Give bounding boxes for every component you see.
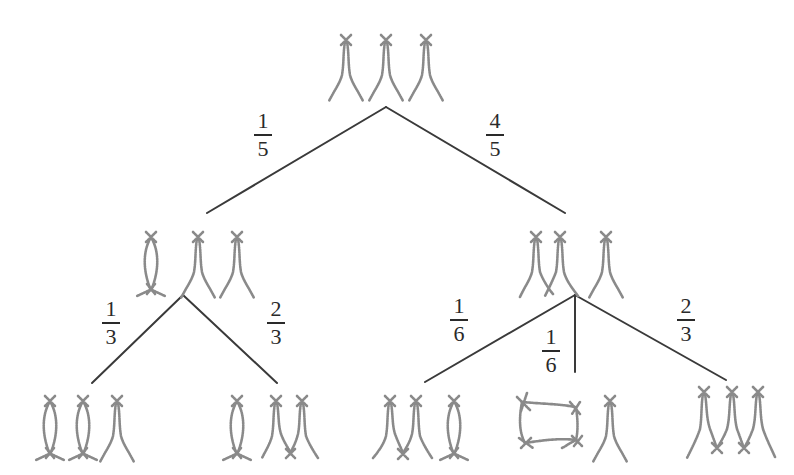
node-level1-right [520, 232, 623, 298]
node-level2-RM [517, 393, 627, 462]
numerator: 1 [449, 295, 469, 317]
edge-root-left [207, 107, 386, 213]
prob-label-right-middle: 1 6 [541, 326, 561, 376]
edge-left-right [183, 295, 277, 383]
prob-label-right-right: 2 3 [676, 295, 696, 345]
node-level2-LR [223, 396, 318, 460]
prob-label-left-right: 2 3 [266, 298, 286, 348]
edge-right-right [575, 295, 726, 380]
numerator: 2 [676, 295, 696, 317]
numerator: 1 [541, 326, 561, 348]
prob-label-right-left: 1 6 [449, 295, 469, 345]
prob-label-root-right: 4 5 [485, 110, 505, 160]
node-level2-RL [373, 396, 468, 460]
node-level1-left [137, 232, 254, 298]
node-level2-RR [687, 387, 775, 458]
numerator: 1 [101, 298, 121, 320]
denominator: 3 [266, 326, 286, 348]
edge-root-right [386, 107, 565, 213]
numerator: 1 [253, 110, 273, 132]
prob-label-left-left: 1 3 [101, 298, 121, 348]
node-root [329, 35, 443, 101]
numerator: 2 [266, 298, 286, 320]
denominator: 6 [541, 354, 561, 376]
denominator: 3 [676, 323, 696, 345]
probability-tree [0, 0, 794, 475]
tree-edges [92, 107, 726, 383]
denominator: 3 [101, 326, 121, 348]
denominator: 5 [253, 138, 273, 160]
denominator: 6 [449, 323, 469, 345]
denominator: 5 [485, 138, 505, 160]
numerator: 4 [485, 110, 505, 132]
node-level2-LL [36, 396, 134, 462]
prob-label-root-left: 1 5 [253, 110, 273, 160]
